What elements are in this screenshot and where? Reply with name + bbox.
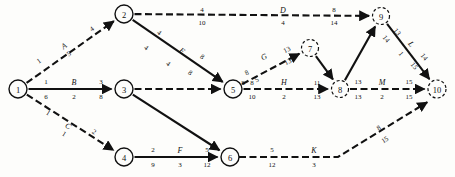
- network-diagram-canvas: 12345678910 ABCDEFGHKLM15416238112410481…: [0, 0, 455, 177]
- activity-label-L: L: [405, 39, 416, 49]
- activity-label-E: E: [177, 45, 187, 56]
- node-label-6: 6: [228, 153, 232, 163]
- num-B-duration: 2: [72, 93, 76, 101]
- node-4[interactable]: 4: [115, 148, 133, 166]
- num-L-duration: 1: [397, 50, 406, 58]
- node-label-5: 5: [231, 85, 235, 95]
- activity-label-D: D: [279, 6, 286, 15]
- node-label-8: 8: [338, 85, 342, 95]
- num-F-early-finish: 5: [205, 146, 209, 154]
- network-graph: 12345678910 ABCDEFGHKLM15416238112410481…: [0, 0, 455, 177]
- node-5[interactable]: 5: [224, 80, 242, 98]
- node-1[interactable]: 1: [9, 80, 27, 98]
- edge-2-5: [133, 20, 223, 82]
- num-H-duration: 2: [282, 93, 286, 101]
- node-6[interactable]: 6: [221, 148, 239, 166]
- node-10[interactable]: 10: [428, 80, 446, 98]
- edge-2-9: [134, 14, 369, 16]
- node-2[interactable]: 2: [115, 5, 133, 23]
- num-E-early-finish: 8: [198, 53, 206, 62]
- num-G-late-start: 8: [241, 79, 245, 87]
- node-9[interactable]: 9: [373, 8, 390, 25]
- num-K-late-start: 12: [269, 161, 277, 169]
- num-A-early-start: 1: [35, 56, 43, 65]
- num-F-late-finish: 12: [204, 161, 212, 169]
- num-E-late-finish: 8: [186, 69, 194, 78]
- activity-label-G: G: [259, 52, 268, 63]
- num-L-late-start: 14: [381, 34, 392, 45]
- node-label-2: 2: [122, 10, 126, 20]
- num-D-late-start: 10: [199, 19, 207, 27]
- edge-6-10: [239, 102, 427, 157]
- num-B-early-start: 1: [44, 78, 48, 86]
- num-F-late-start: 9: [151, 161, 155, 169]
- num-M-early-finish: 15: [406, 78, 414, 86]
- num-G-early-start: 8: [244, 68, 251, 77]
- num-L-early-finish: 14: [419, 52, 430, 63]
- activity-label-K: K: [310, 146, 317, 155]
- num-G-duration: 5: [254, 75, 261, 84]
- node-label-9: 9: [379, 12, 383, 22]
- num-B-late-finish: 8: [99, 93, 103, 101]
- activity-label-F: F: [177, 146, 183, 155]
- num-B-late-start: 6: [44, 93, 48, 101]
- num-B-early-finish: 3: [99, 78, 103, 86]
- num-F-duration: 3: [178, 161, 182, 169]
- num-L-early-start: 13: [392, 27, 403, 38]
- activity-label-B: B: [72, 78, 77, 87]
- node-label-10: 10: [433, 85, 442, 95]
- num-M-late-start: 13: [355, 93, 363, 101]
- num-M-early-start: 13: [355, 78, 363, 86]
- node-8[interactable]: 8: [332, 81, 349, 98]
- num-A-early-finish: 4: [88, 24, 96, 33]
- activity-label-M: M: [378, 78, 387, 87]
- num-K-early-start: 5: [270, 146, 274, 154]
- node-7[interactable]: 7: [302, 40, 319, 57]
- edge-7-8: [316, 56, 333, 79]
- edge-3-6: [133, 95, 220, 151]
- num-D-early-finish: 8: [332, 6, 336, 14]
- num-M-duration: 2: [380, 93, 384, 101]
- num-E-duration: 4: [164, 60, 172, 69]
- num-C-early-start: 1: [44, 109, 52, 118]
- num-H-late-start: 10: [249, 93, 257, 101]
- num-K-duration: 3: [312, 161, 316, 169]
- num-K-late-finish: 15: [380, 134, 391, 145]
- num-F-early-start: 2: [151, 146, 155, 154]
- edge-1-2: [27, 21, 114, 83]
- num-M-late-finish: 15: [406, 93, 414, 101]
- num-H-early-start: 8: [250, 79, 254, 87]
- edge-8-9: [345, 26, 375, 80]
- num-D-late-finish: 14: [331, 19, 339, 27]
- activity-label-H: H: [280, 78, 288, 87]
- num-E-late-start: 4: [142, 44, 150, 53]
- node-3[interactable]: 3: [115, 80, 133, 98]
- num-D-duration: 4: [281, 19, 285, 27]
- num-H-late-finish: 13: [314, 93, 322, 101]
- node-label-1: 1: [16, 85, 20, 95]
- num-H-early-finish: 11: [314, 79, 321, 87]
- num-C-duration: 1: [60, 130, 68, 139]
- num-L-late-finish: 15: [409, 61, 420, 72]
- node-label-7: 7: [308, 44, 312, 54]
- num-D-early-start: 4: [200, 6, 204, 14]
- num-G-early-finish: 13: [282, 45, 292, 56]
- node-label-3: 3: [122, 85, 126, 95]
